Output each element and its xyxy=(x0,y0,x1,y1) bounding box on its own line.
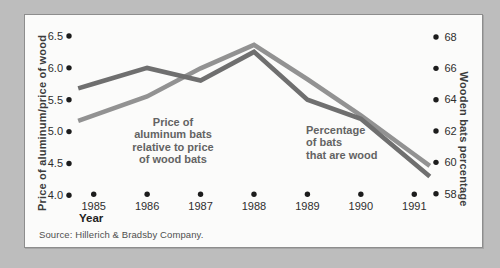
x-axis-tick-label: 1989 xyxy=(295,200,319,212)
left-axis-tick-dot xyxy=(66,129,71,134)
chart-panel: 6.56.05.55.04.54.06866646260581985198619… xyxy=(24,14,483,248)
annotation-price-line: Price of aluminum bats relative to price… xyxy=(113,116,233,165)
x-axis-tick-label: 1988 xyxy=(242,200,266,212)
right-axis-tick-dot xyxy=(433,128,438,133)
x-axis-tick-dot xyxy=(305,192,310,197)
x-axis-tick-label: 1990 xyxy=(349,200,373,212)
x-axis-tick-label: 1991 xyxy=(402,200,426,212)
x-axis-tick-dot xyxy=(198,192,203,197)
left-axis-title: Price of aluminum/price of wood xyxy=(36,28,52,218)
left-axis-tick-dot xyxy=(66,97,71,102)
source-note: Source: Hillerich & Bradsby Company. xyxy=(39,229,203,240)
x-axis-tick-dot xyxy=(412,192,417,197)
x-axis-tick-dot xyxy=(91,192,96,197)
right-axis-tick-dot xyxy=(433,97,438,102)
x-axis-title: Year xyxy=(79,212,103,224)
x-axis-tick-dot xyxy=(144,192,149,197)
left-axis-tick-dot xyxy=(66,193,71,198)
x-axis-tick-label: 1987 xyxy=(188,200,212,212)
left-axis-tick-dot xyxy=(66,65,71,70)
annotation-percentage-line: Percentage of bats that are wood xyxy=(306,124,416,161)
figure-background: 6.56.05.55.04.54.06866646260581985198619… xyxy=(0,0,500,268)
left-axis-tick-dot xyxy=(66,161,71,166)
right-axis-tick-dot xyxy=(433,34,438,39)
x-axis-tick-dot xyxy=(251,192,256,197)
right-axis-tick-dot xyxy=(433,66,438,71)
x-axis-tick-label: 1985 xyxy=(81,200,105,212)
right-axis-tick-dot xyxy=(433,191,438,196)
right-axis-tick-dot xyxy=(433,160,438,165)
right-axis-tick-label: 68 xyxy=(445,31,457,43)
x-axis-tick-label: 1986 xyxy=(135,200,159,212)
x-axis-tick-dot xyxy=(358,192,363,197)
left-axis-tick-dot xyxy=(66,33,71,38)
right-axis-title: Wooden bats percentage xyxy=(454,59,470,219)
